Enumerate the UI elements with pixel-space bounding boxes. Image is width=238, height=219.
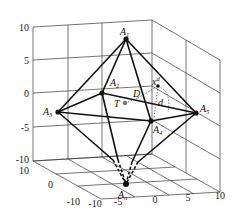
svg-text:-10: -10 xyxy=(16,154,29,165)
octahedron-diagram: 10 5 0 -5 -10 10 0 -10 -10 -5 0 5 10 A1 … xyxy=(0,0,238,219)
svg-text:-10: -10 xyxy=(67,196,80,207)
vertex-a2 xyxy=(99,90,104,95)
z-axis-ticks: 10 5 0 -5 -10 xyxy=(16,22,29,165)
svg-text:10: 10 xyxy=(215,190,225,201)
label-a5: A5 xyxy=(199,103,210,115)
svg-text:0: 0 xyxy=(48,179,53,190)
label-d-point: D xyxy=(132,88,141,99)
svg-text:5: 5 xyxy=(186,192,191,203)
vertex-a3 xyxy=(55,109,60,114)
svg-text:-10: -10 xyxy=(88,198,101,209)
octahedron-edges xyxy=(58,39,196,184)
y-axis-ticks: 10 0 -10 xyxy=(19,165,80,207)
vertex-a4 xyxy=(148,118,153,123)
svg-text:0: 0 xyxy=(153,194,158,205)
svg-text:-5: -5 xyxy=(21,122,29,133)
label-a2: A2 xyxy=(109,77,120,89)
label-a3: A3 xyxy=(42,106,53,118)
svg-text:5: 5 xyxy=(24,55,29,66)
vertex-a5 xyxy=(193,110,198,115)
svg-text:10: 10 xyxy=(19,22,29,33)
svg-text:0: 0 xyxy=(24,88,29,99)
svg-text:10: 10 xyxy=(19,165,29,176)
point-xd xyxy=(156,84,160,88)
vertex-an xyxy=(123,181,129,187)
label-a1: A1 xyxy=(119,26,129,38)
label-an: An xyxy=(117,189,127,201)
point-t xyxy=(123,101,128,106)
label-t: T xyxy=(114,98,121,109)
